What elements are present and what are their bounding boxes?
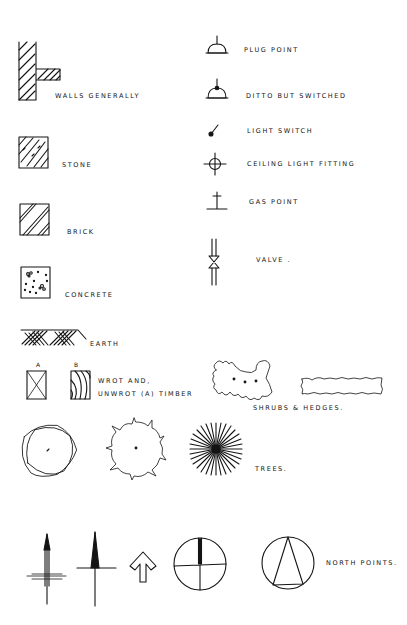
north-point-circle-quarter-icon [172, 536, 228, 596]
light-switch-icon [208, 122, 220, 141]
timber-marker-a: A [36, 361, 40, 368]
concrete-label: Concrete [65, 291, 114, 299]
shrub-icon [210, 358, 282, 406]
plug-point-label: Plug point [244, 46, 299, 54]
ceiling-light-icon [203, 152, 227, 180]
wrot-timber-icon [26, 370, 48, 404]
unwrot-timber-icon [70, 370, 92, 404]
earth-hatch-icon [20, 329, 86, 351]
switched-plug-icon [206, 78, 228, 104]
gas-point-icon [206, 191, 228, 215]
brick-label: Brick [67, 228, 95, 236]
valve-icon [208, 239, 220, 289]
brick-hatch-icon [19, 203, 51, 241]
north-points-label: North points. [326, 559, 398, 567]
tree-foliage-icon [106, 418, 166, 484]
hedge-icon [300, 375, 384, 401]
plug-point-icon [206, 35, 228, 59]
timber-label-line1: Wrot and, [98, 377, 151, 385]
stone-hatch-icon [18, 136, 50, 174]
stone-label: Stone [62, 161, 92, 169]
header-fragment: · · · · · · [100, 0, 140, 4]
walls-label: Walls generally [55, 92, 140, 100]
north-point-circle-triangle-icon [260, 535, 316, 595]
valve-label: Valve . [256, 256, 291, 264]
north-point-cross-icon [26, 532, 68, 610]
earth-label: Earth [90, 340, 119, 348]
north-point-needle-icon [76, 530, 118, 610]
north-point-arrow-icon [128, 550, 158, 588]
light-switch-label: Light switch [247, 127, 313, 135]
timber-marker-b: B [74, 361, 78, 368]
gas-point-label: Gas point [249, 198, 299, 206]
ditto-switched-label: Ditto but switched [246, 92, 347, 100]
trees-label: Trees. [255, 465, 288, 473]
concrete-speckle-icon [20, 266, 52, 304]
timber-label-line2: unwrot (a) timber [98, 390, 193, 398]
tree-outline-icon [18, 422, 78, 484]
ceiling-light-label: Ceiling light fitting [247, 160, 355, 168]
tree-radial-icon [188, 421, 244, 481]
shrubs-hedges-label: Shrubs & hedges. [253, 404, 344, 412]
